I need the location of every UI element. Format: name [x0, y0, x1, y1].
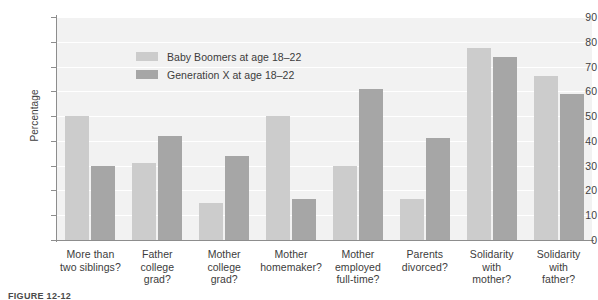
bar [359, 89, 383, 240]
legend-swatch-generation-x [136, 70, 158, 79]
category-label-line: Solidarity [519, 248, 598, 261]
bar [91, 166, 115, 240]
y-tick-mark [51, 67, 57, 68]
y-tick-label: 70 [551, 61, 597, 73]
y-tick-mark [51, 215, 57, 216]
y-tick-mark [51, 240, 57, 241]
bar [158, 136, 182, 240]
y-axis-line [56, 15, 57, 242]
bar [560, 94, 584, 240]
bar [199, 203, 223, 240]
bar [132, 163, 156, 240]
y-axis-title: Percentage [29, 56, 40, 176]
legend-swatch-baby-boomers [136, 52, 158, 61]
category-label-line: father? [519, 273, 598, 286]
gridline [57, 17, 592, 18]
y-tick-mark [51, 116, 57, 117]
bar [333, 166, 357, 240]
y-tick-mark [51, 91, 57, 92]
y-tick-mark [51, 166, 57, 167]
figure-caption: FIGURE 12-12 [8, 291, 71, 300]
y-tick-label: 80 [551, 36, 597, 48]
bar [266, 116, 290, 240]
legend-label-baby-boomers: Baby Boomers at age 18–22 [167, 51, 301, 63]
bar [292, 199, 316, 240]
bar [493, 57, 517, 240]
chart-legend: Baby Boomers at age 18–22 Generation X a… [136, 49, 301, 85]
bar [65, 116, 89, 240]
y-tick-mark [51, 141, 57, 142]
bar [426, 138, 450, 240]
bar [225, 156, 249, 240]
legend-item: Generation X at age 18–22 [136, 67, 301, 82]
bar [534, 76, 558, 240]
y-tick-mark [51, 190, 57, 191]
category-label-line: with [519, 261, 598, 274]
gridline [57, 42, 592, 43]
bar [467, 48, 491, 240]
legend-label-generation-x: Generation X at age 18–22 [167, 69, 294, 81]
y-tick-mark [51, 17, 57, 18]
figure-number: FIGURE 12-12 [8, 291, 71, 300]
legend-item: Baby Boomers at age 18–22 [136, 49, 301, 64]
x-axis-line [56, 240, 594, 241]
bar [400, 199, 424, 240]
category-label-line: grad? [185, 273, 264, 286]
x-axis-category-label: Solidaritywithfather? [519, 248, 598, 286]
y-tick-label: 90 [551, 11, 597, 23]
y-tick-mark [51, 42, 57, 43]
category-label-line: full-time? [319, 273, 398, 286]
